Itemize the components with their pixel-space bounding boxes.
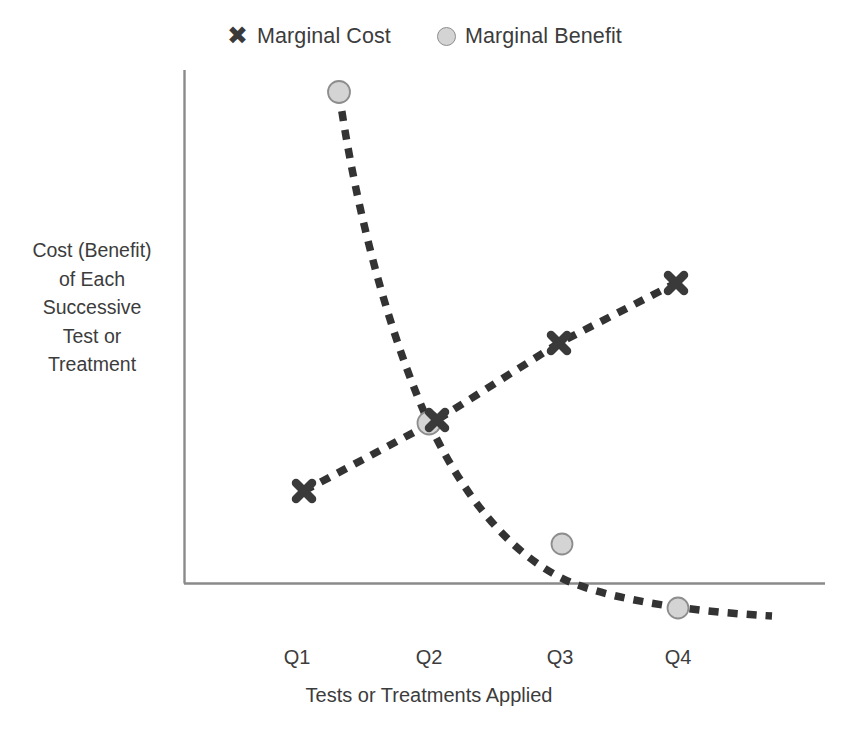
x-tick-label-q3: Q3 <box>520 646 600 669</box>
chart-container: ✖ Marginal Cost Marginal Benefit Cost (B… <box>0 0 849 738</box>
data-point-cost-q3 <box>551 335 567 351</box>
plot-area <box>0 0 849 738</box>
data-point-benefit-q3 <box>552 534 573 555</box>
series-line-marginal-cost <box>304 283 676 491</box>
x-tick-label-q1: Q1 <box>257 646 337 669</box>
data-point-benefit-q1 <box>328 81 350 103</box>
x-tick-label-q2: Q2 <box>389 646 469 669</box>
data-point-cost-q2 <box>429 412 445 428</box>
data-point-benefit-q4 <box>668 598 689 619</box>
x-axis-title: Tests or Treatments Applied <box>184 684 674 707</box>
data-point-cost-q4 <box>668 275 684 291</box>
data-point-cost-q1 <box>296 483 312 499</box>
x-tick-label-q4: Q4 <box>638 646 718 669</box>
